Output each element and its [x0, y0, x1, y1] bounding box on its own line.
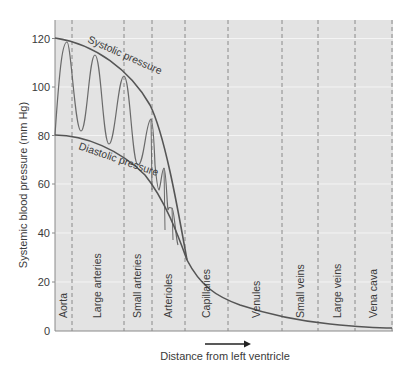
- region-label-vena-cava: Vena cava: [367, 269, 379, 318]
- region-label-large-veins: Large veins: [331, 264, 343, 318]
- region-label-aorta: Aorta: [57, 293, 69, 318]
- y-tick-120: 120: [32, 33, 50, 45]
- direction-arrow-icon: [205, 341, 251, 348]
- y-tick-labels: 0 20 40 60 80 100 120: [32, 33, 50, 338]
- y-tick-40: 40: [38, 227, 50, 239]
- region-label-small-arteries: Small arteries: [131, 254, 143, 318]
- y-tick-80: 80: [38, 130, 50, 142]
- y-tick-60: 60: [38, 178, 50, 190]
- x-axis-title: Distance from left ventricle: [160, 350, 290, 362]
- region-label-capillaries: Capillaries: [200, 269, 212, 318]
- blood-pressure-chart: 0 20 40 60 80 100 120 Systemic blood pre…: [0, 0, 412, 373]
- y-axis-title: Systemic blood pressure (mm Hg): [17, 102, 29, 268]
- y-tick-20: 20: [38, 276, 50, 288]
- chart-svg: 0 20 40 60 80 100 120 Systemic blood pre…: [0, 0, 412, 373]
- y-tick-100: 100: [32, 81, 50, 93]
- region-label-arterioles: Arterioles: [162, 274, 174, 318]
- region-label-venules: Venules: [250, 281, 262, 318]
- region-label-large-arteries: Large arteries: [91, 253, 103, 318]
- region-label-small-veins: Small veins: [294, 264, 306, 318]
- y-tick-0: 0: [44, 325, 50, 337]
